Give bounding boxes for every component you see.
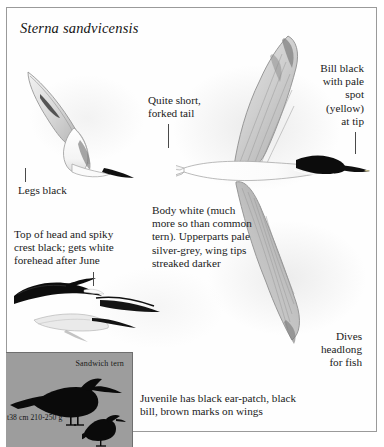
bird-field-guide-plate: Sterna sandvicensis Quite short, forked … bbox=[0, 0, 384, 447]
size-comparison-inset: Sandwich tern t38 cm 210-250 g bbox=[6, 352, 133, 447]
annotation-bill: Bill black with pale spot (yellow) at ti… bbox=[274, 62, 364, 128]
annotation-tail: Quite short, forked tail bbox=[148, 94, 201, 120]
inset-measurements: t38 cm 210-250 g bbox=[7, 413, 62, 422]
page-title: Sterna sandvicensis bbox=[20, 20, 139, 37]
leader-line-bill bbox=[355, 132, 356, 154]
leader-line-tail bbox=[168, 124, 169, 148]
annotation-crest: Top of head and spiky crest black; gets … bbox=[14, 228, 114, 268]
annotation-body: Body white (much more so than common ter… bbox=[152, 204, 252, 270]
annotation-legs: Legs black bbox=[18, 184, 67, 197]
silhouette-small-bird-illustration bbox=[82, 411, 126, 447]
inset-species-label: Sandwich tern bbox=[75, 359, 124, 368]
leader-line-legs bbox=[25, 168, 26, 182]
annotation-juvenile: Juvenile has black ear-patch, black bill… bbox=[140, 392, 296, 418]
annotation-dives: Dives headlong for fish bbox=[282, 330, 362, 370]
leader-line-crest bbox=[93, 272, 94, 286]
